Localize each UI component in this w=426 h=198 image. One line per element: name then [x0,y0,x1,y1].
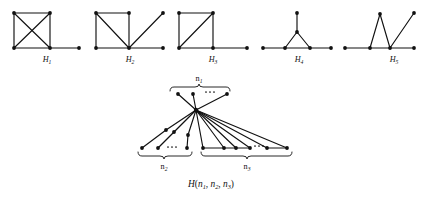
graph-node [172,130,176,134]
graph-node [245,46,249,50]
graph-label-H2: H2 [125,55,135,65]
branch-label-n2: n2 [161,162,168,172]
graph-node [285,146,289,150]
edge [380,14,390,48]
graph-node [164,128,168,132]
graph-H-n1-n2-n3: n1 n2 n3 H(n1, n2, n3) [138,74,292,190]
graph-H1-edges [14,13,79,48]
edge [285,32,297,48]
edge [196,110,267,148]
figure-root: H1 H2 [0,0,426,198]
graph-node [378,12,382,16]
edge [187,135,188,148]
center-hub-node [194,108,198,112]
graph-H3-edges [179,13,247,48]
graph-node [308,46,312,50]
brace-n3 [201,152,292,159]
graph-node [185,146,189,150]
edge [166,110,196,130]
graph-node [127,46,131,50]
graph-node [295,11,299,15]
ellipsis-n1 [205,91,215,93]
main-graph-caption: H(n1, n2, n3) [187,179,234,190]
graph-node [211,46,215,50]
graph-node [156,146,160,150]
graph-node [12,11,16,15]
edge-pendant [129,13,163,48]
graph-label-H1: H1 [42,55,52,65]
graph-H4: H4 [261,11,333,65]
graph-node [140,146,144,150]
edge [142,130,166,148]
ellipsis-n2 [167,146,177,148]
graph-H5: H5 [343,11,416,65]
graph-node [176,92,180,96]
graph-H2: H2 [94,11,165,65]
edge-diagonal [96,13,129,48]
ellipsis-n3 [254,145,264,147]
graph-node [283,46,287,50]
graph-H2-edges [96,13,163,48]
graph-label-H5: H5 [389,55,399,65]
graph-node [234,146,238,150]
graph-node [343,46,347,50]
graph-node [222,146,226,150]
graph-node [368,46,372,50]
edge [196,94,227,110]
graph-node [77,46,81,50]
graph-node [127,11,131,15]
edge [297,32,310,48]
branch-label-n3: n3 [244,162,251,172]
branch-n1-edges [178,94,227,110]
branch-n2-edges [142,110,196,148]
graph-node [295,30,299,34]
graph-node [177,11,181,15]
branch-label-n1: n1 [196,74,203,84]
graph-node [12,46,16,50]
edge [370,14,380,48]
graph-node [211,11,215,15]
graph-node [94,46,98,50]
graph-node [191,92,195,96]
brace-n2 [138,152,192,159]
graph-H5-edges [345,13,414,48]
graph-H1: H1 [12,11,81,65]
graph-node [388,46,392,50]
graph-node [248,146,252,150]
brace-n1 [170,84,230,91]
branch-n1-nodes [176,92,229,96]
graph-node [177,46,181,50]
graph-node [94,11,98,15]
edge [390,13,414,48]
branch-n2-nodes [140,128,190,150]
graph-node [261,46,265,50]
graph-node [329,46,333,50]
graph-node [186,133,190,137]
branch-n3-edges [196,110,287,148]
graph-label-H4: H4 [294,55,304,65]
edge-diagonal [179,13,213,48]
graph-node [48,11,52,15]
graph-node [412,46,416,50]
graph-H3: H3 [177,11,249,65]
graph-node [201,146,205,150]
graph-figure-svg: H1 H2 [0,0,426,198]
graph-node [161,11,165,15]
graph-node [412,11,416,15]
graph-label-H3: H3 [208,55,218,65]
graph-node [265,146,269,150]
graph-node [161,46,165,50]
graph-node [225,92,229,96]
graph-node [48,46,52,50]
